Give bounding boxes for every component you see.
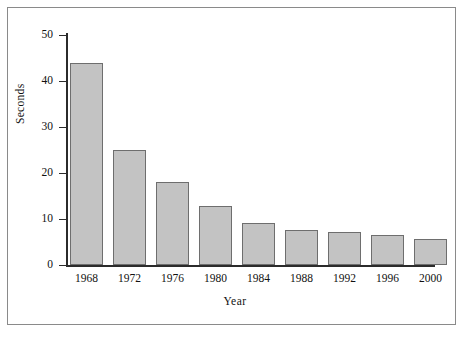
y-axis-tick <box>59 219 67 220</box>
bar <box>371 235 404 265</box>
bar <box>285 230 318 265</box>
bar <box>328 232 361 265</box>
y-axis-title: Seconds <box>14 84 26 124</box>
y-axis-tick-label: 20 <box>14 167 53 179</box>
y-axis-tick <box>59 127 67 128</box>
y-axis-tick-label: 0 <box>14 259 53 271</box>
bar <box>156 182 189 265</box>
y-axis-tick-label: 50 <box>14 29 53 41</box>
bar <box>199 206 232 265</box>
y-axis-line <box>66 33 68 267</box>
y-axis-tick <box>59 81 67 82</box>
bar-chart-plot-area: 01020304050 1968197219761980198419881992… <box>0 0 470 338</box>
x-axis-tick-label: 2000 <box>410 272 451 284</box>
y-axis-tick <box>59 173 67 174</box>
x-axis-tick-label: 1988 <box>281 272 322 284</box>
bar <box>242 223 275 265</box>
x-axis-tick-label: 1968 <box>66 272 107 284</box>
x-axis-tick-label: 1972 <box>109 272 150 284</box>
x-axis-tick-label: 1976 <box>152 272 193 284</box>
x-axis-tick-label: 1996 <box>367 272 408 284</box>
bar <box>70 63 103 265</box>
y-axis-tick <box>59 265 67 266</box>
y-axis-tick-label: 10 <box>14 213 53 225</box>
x-axis-tick-label: 1992 <box>324 272 365 284</box>
x-axis-tick-label: 1984 <box>238 272 279 284</box>
x-axis-title: Year <box>0 295 470 307</box>
y-axis-tick <box>59 35 67 36</box>
x-axis-line <box>66 265 435 267</box>
bar <box>414 239 447 265</box>
x-axis-tick-label: 1980 <box>195 272 236 284</box>
bar <box>113 150 146 265</box>
